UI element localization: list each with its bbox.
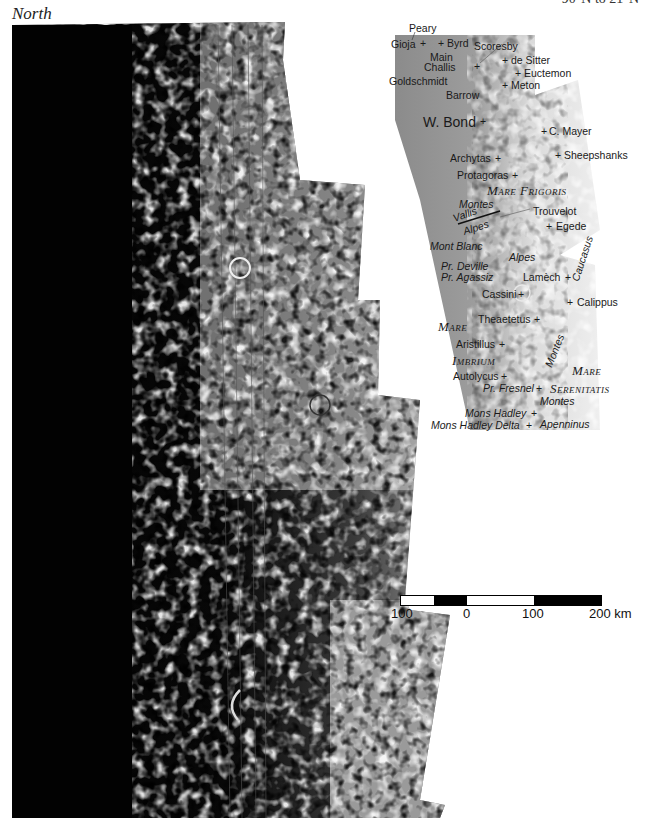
- crater-label-lamech: Lamèch: [523, 272, 560, 283]
- marker-plus: +: [480, 116, 486, 127]
- crater-label-scoresby: Scoresby: [474, 41, 518, 52]
- crater-label-w-bond: W. Bond: [423, 115, 476, 129]
- feature-label-mont-blanc: Mont Blanc: [430, 241, 483, 252]
- scale-segment-black: [434, 596, 467, 605]
- crater-label-aristillus: Aristillus: [456, 339, 495, 350]
- scale-tick-200-km: 200 km: [589, 606, 632, 621]
- marker-plus: +: [512, 170, 518, 181]
- crater-label-goldschmidt: Goldschmidt: [389, 76, 447, 87]
- feature-label-mons-hadley: Mons Hadley: [465, 408, 526, 419]
- crater-label-byrd: Byrd: [447, 38, 469, 49]
- crater-label-gioja: Gioja: [391, 39, 416, 50]
- crater-label-barrow: Barrow: [446, 90, 479, 101]
- crater-label-calippus: Calippus: [577, 297, 618, 308]
- crater-label-sheepshanks: Sheepshanks: [564, 150, 628, 161]
- marker-plus: +: [531, 408, 537, 419]
- feature-label-pr-agassiz: Pr. Agassiz: [441, 272, 493, 283]
- scale-tick-0: 0: [463, 606, 470, 621]
- marker-plus: +: [526, 420, 532, 431]
- marker-plus: +: [420, 38, 426, 49]
- marker-plus: +: [502, 55, 508, 66]
- crater-label-euctemon: Euctemon: [524, 68, 571, 79]
- marker-plus: +: [541, 126, 547, 137]
- scale-segment-white: [401, 596, 434, 605]
- marker-plus: +: [536, 383, 542, 394]
- marker-plus: +: [518, 289, 524, 300]
- marker-plus: +: [495, 153, 501, 164]
- marker-plus: +: [438, 38, 444, 49]
- crater-label-de-sitter: de Sitter: [511, 55, 550, 66]
- crater-label-egede: Egede: [556, 221, 586, 232]
- marker-plus: +: [502, 80, 508, 91]
- marker-plus: +: [546, 221, 552, 232]
- crater-label-cassini: Cassini: [482, 289, 516, 300]
- feature-label-apenninus: Apenninus: [540, 419, 590, 430]
- mare-label-mare-imbrium-1: Mare: [438, 319, 467, 335]
- crater-label-trouvelot: Trouvelot: [533, 206, 576, 217]
- marker-plus: +: [499, 339, 505, 350]
- marker-plus: +: [567, 297, 573, 308]
- scale-bar: [400, 595, 602, 606]
- feature-label-montes-apenninus: Montes: [540, 396, 574, 407]
- crater-label-protagoras: Protagoras: [457, 170, 508, 181]
- marker-plus: +: [565, 272, 571, 283]
- crater-label-meton: Meton: [511, 80, 540, 91]
- marker-plus: +: [501, 371, 507, 382]
- feature-label-mons-hadley-delta: Mons Hadley Delta: [431, 420, 520, 431]
- crater-label-theaetetus: Theaetetus: [478, 314, 531, 325]
- crater-label-peary: Peary: [409, 23, 436, 34]
- scale-tick-neg-100: 100: [391, 606, 413, 621]
- feature-label-pr-deville: Pr. Deville: [441, 261, 488, 272]
- mare-label-imbrium: Imbrium: [452, 353, 495, 369]
- mare-label-frigoris: Mare Frigoris: [487, 183, 567, 199]
- scale-segment-white: [467, 596, 534, 605]
- marker-plus: +: [515, 68, 521, 79]
- crater-label-challis: Challis: [424, 62, 456, 73]
- scale-tick-100: 100: [522, 606, 544, 621]
- feature-label-pr-fresnel: Pr. Fresnel: [483, 383, 534, 394]
- crater-label-archytas: Archytas: [450, 153, 491, 164]
- marker-plus: +: [534, 314, 540, 325]
- mare-label-mare-serenitatis-1: Mare: [572, 363, 601, 379]
- marker-plus: +: [555, 150, 561, 161]
- marker-plus: +: [474, 61, 480, 72]
- crater-label-autolycus: Autolycus: [453, 371, 499, 382]
- feature-label-alpes-2: Alpes: [509, 252, 535, 263]
- crater-label-c-mayer: C. Mayer: [549, 126, 592, 137]
- scale-segment-black: [534, 596, 601, 605]
